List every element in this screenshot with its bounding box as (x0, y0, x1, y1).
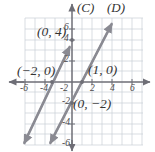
point-label-neg2-0: (−2, 0) (17, 64, 55, 78)
point-marker-1-0 (80, 80, 84, 84)
x-tick-label--4: -4 (40, 84, 48, 94)
coordinate-graph-figure: (C) (D) (0, 4) (−2, 0) (1, 0) (0, −2) -6… (0, 0, 155, 152)
y-tick-label-2: 2 (64, 55, 69, 65)
y-tick-label-6: 6 (64, 23, 69, 33)
point-label-0-4: (0, 4) (37, 25, 66, 39)
point-label-1-0: (1, 0) (88, 63, 117, 77)
x-tick-label--6: -6 (20, 84, 28, 94)
x-tick-label-6: 6 (130, 84, 135, 94)
x-tick-label--2: -2 (60, 84, 68, 94)
x-tick-label-4: 4 (110, 84, 115, 94)
y-tick-label--6: -6 (62, 139, 70, 149)
x-tick-label-2: 2 (90, 84, 95, 94)
y-tick-label--4: -4 (62, 118, 70, 128)
point-marker-neg2-0 (50, 80, 54, 84)
y-tick-label--2: -2 (62, 97, 70, 107)
point-marker-0-4 (70, 38, 74, 42)
line-label-c: (C) (77, 1, 94, 14)
y-tick-label-4: 4 (64, 34, 69, 44)
line-label-d: (D) (107, 1, 125, 14)
point-label-0-neg2: (0, −2) (73, 97, 111, 111)
